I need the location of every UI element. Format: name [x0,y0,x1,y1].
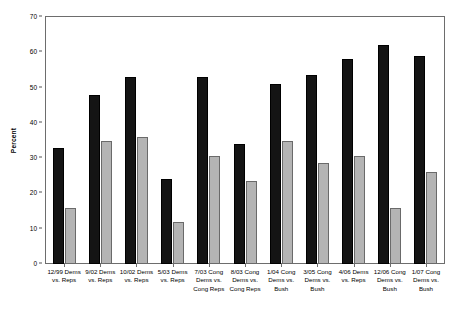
bars-container [46,17,444,264]
x-tick-label: 7/03 Cong Dems vs. Cong Reps [191,268,227,312]
bar [53,148,64,264]
x-tick-label: 1/04 Cong Dems vs. Bush [263,268,299,312]
bar-group [46,17,82,264]
bar-group [336,17,372,264]
bar [270,84,281,264]
bar [89,95,100,264]
bar-group [118,17,154,264]
y-tick-mark [39,263,42,264]
x-tick-label: 9/02 Dems vs. Reps [82,268,118,312]
bar-group [372,17,408,264]
bar-group [82,17,118,264]
bar [282,141,293,265]
y-tick-mark [39,227,42,228]
bar [125,77,136,264]
y-tick-mark [39,51,42,52]
bar-group [191,17,227,264]
bar [234,144,245,264]
y-tick-mark [39,16,42,17]
bar-group [227,17,263,264]
y-tick-label: 20 [30,189,37,196]
y-axis-title: Percent [6,0,22,280]
bar [318,163,329,264]
x-tick-label: 12/06 Cong Dems vs. Bush [372,268,408,312]
bar [173,222,184,264]
y-tick-label: 10 [30,224,37,231]
bar [65,208,76,264]
x-tick-label: 5/03 Dems vs. Reps [155,268,191,312]
x-tick-label: 3/05 Cong Dems vs. Bush [299,268,335,312]
x-tick-label: 10/02 Dems vs. Reps [118,268,154,312]
y-tick-label: 0 [33,260,37,267]
bar [209,156,220,264]
y-tick-mark [39,121,42,122]
x-axis-labels: 12/99 Dems vs. Reps9/02 Dems vs. Reps10/… [46,268,444,312]
x-tick-label: 8/03 Cong Dems vs. Cong Reps [227,268,263,312]
x-tick-label: 12/99 Dems vs. Reps [46,268,82,312]
bar [246,181,257,264]
y-tick-label: 30 [30,154,37,161]
y-tick-label: 70 [30,13,37,20]
bar [354,156,365,264]
y-tick-label: 60 [30,48,37,55]
y-tick-label: 50 [30,83,37,90]
bar [426,172,437,264]
bar [414,56,425,264]
x-tick-label: 1/07 Cong Dems vs. Bush [408,268,444,312]
y-tick-mark [39,157,42,158]
bar [101,141,112,265]
y-axis-title-label: Percent [11,127,18,152]
y-tick-mark [39,86,42,87]
bar [390,208,401,264]
bar [137,137,148,264]
y-tick-label: 40 [30,118,37,125]
y-axis-ticks: 010203040506070 [22,16,42,264]
bar [342,59,353,264]
bar-group [408,17,444,264]
bar-group [263,17,299,264]
bar [306,75,317,264]
bar [378,45,389,264]
bar-group [299,17,335,264]
bar [161,179,172,264]
bar-group [155,17,191,264]
x-tick-label: 4/06 Dems vs. Reps [336,268,372,312]
bar [197,77,208,264]
y-tick-mark [39,192,42,193]
bar-chart: Percent 010203040506070 12/99 Dems vs. R… [0,0,452,314]
